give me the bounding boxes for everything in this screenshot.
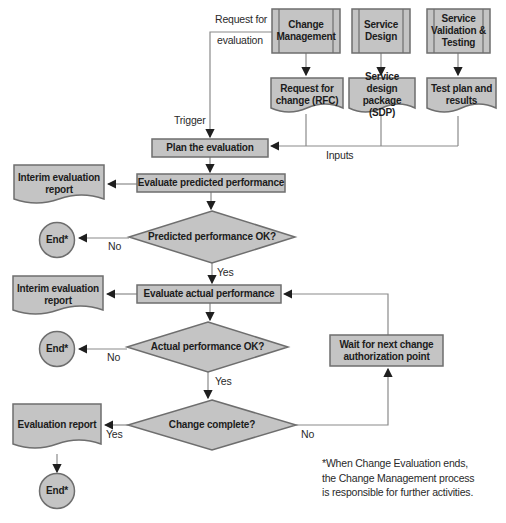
rfc-document-label: Request for change (RFC): [271, 80, 343, 110]
inputs-label: Inputs: [326, 149, 353, 161]
wait-authorization-label: Wait for next change authorization point: [332, 335, 441, 366]
evaluate-actual-label: Evaluate actual performance: [137, 285, 281, 303]
footnote: *When Change Evaluation ends, the Change…: [322, 456, 502, 500]
change-management-label: Change Management: [272, 9, 340, 53]
evaluate-predicted-label: Evaluate predicted performance: [137, 174, 285, 192]
test-plan-document-label: Test plan and results: [427, 80, 496, 110]
predicted-ok-label: Predicted performance OK?: [129, 213, 295, 261]
footnote-line-2: the Change Management process: [322, 471, 502, 486]
connector-wait-to-evaluate-actual: [284, 294, 388, 335]
yes-complete-label: Yes: [106, 428, 123, 440]
service-validation-label: Service Validation & Testing: [427, 9, 490, 53]
end-1-label: End*: [39, 222, 75, 258]
request-for-label: Request for: [215, 13, 267, 25]
interim-report-1-label: Interim evaluation report: [14, 168, 104, 200]
connector-complete-no-to-wait: [296, 369, 388, 425]
end-3-label: End*: [39, 473, 75, 509]
footnote-line-3: is responsible for further activities.: [322, 485, 502, 500]
sdp-document-label: Service design package (SDP): [349, 80, 415, 110]
no-predicted-label: No: [108, 240, 121, 252]
plan-evaluation-label: Plan the evaluation: [152, 139, 268, 157]
service-design-label: Service Design: [352, 9, 410, 53]
actual-ok-label: Actual performance OK?: [127, 324, 288, 370]
yes-actual-label: Yes: [215, 375, 232, 387]
trigger-label: Trigger: [174, 114, 205, 126]
interim-report-2-label: Interim evaluation report: [13, 279, 103, 311]
change-complete-label: Change complete?: [128, 402, 296, 448]
change-evaluation-flowchart: Change Management Service Design Service…: [0, 0, 506, 523]
yes-predicted-label: Yes: [217, 266, 234, 278]
evaluation-word-label: evaluation: [217, 34, 263, 46]
no-complete-label: No: [301, 428, 314, 440]
evaluation-report-label: Evaluation report: [13, 407, 101, 443]
end-2-label: End*: [39, 331, 75, 367]
connector-request-for-evaluation: [210, 32, 272, 137]
no-actual-label: No: [107, 351, 120, 363]
footnote-line-1: *When Change Evaluation ends,: [322, 456, 502, 471]
